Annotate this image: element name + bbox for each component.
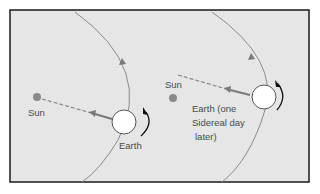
right-earth-label-line-2: Sidereal day [192, 117, 245, 128]
left-earth-label: Earth [119, 140, 142, 151]
right-sun-icon [169, 94, 177, 102]
right-earth-label-line-3: later) [195, 131, 217, 142]
sidereal-day-diagram: Sun Earth Sun Earth (one Sidereal day la… [0, 0, 320, 194]
right-earth-icon [252, 85, 276, 109]
left-sun-label: Sun [28, 107, 45, 118]
right-sun-label: Sun [165, 79, 182, 90]
right-earth-label-line-1: Earth (one [192, 103, 236, 114]
left-earth-icon [112, 110, 136, 134]
left-sun-icon [33, 93, 41, 101]
